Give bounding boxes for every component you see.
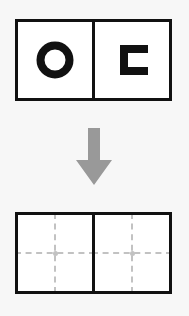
input-shapes-panel — [15, 19, 172, 101]
square-bracket-c-shape-icon — [112, 40, 152, 80]
input-cell-right — [95, 22, 169, 98]
crosshair-guides — [95, 215, 169, 291]
center-dot-marker — [130, 251, 135, 256]
vertical-dashed-guide — [54, 215, 56, 291]
centerline-cell-left — [18, 215, 95, 291]
horizontal-dashed-guide — [18, 252, 95, 254]
crosshair-guides — [18, 215, 92, 291]
diagram-stage — [0, 0, 189, 316]
ring-o-shape-icon — [35, 40, 75, 80]
center-dot-marker — [53, 251, 58, 256]
input-cell-left — [18, 22, 95, 98]
horizontal-dashed-guide — [95, 252, 169, 254]
vertical-dashed-guide — [131, 215, 133, 291]
centerlines-panel — [15, 212, 172, 294]
down-arrow-icon — [74, 128, 114, 186]
centerline-cell-right — [95, 215, 169, 291]
